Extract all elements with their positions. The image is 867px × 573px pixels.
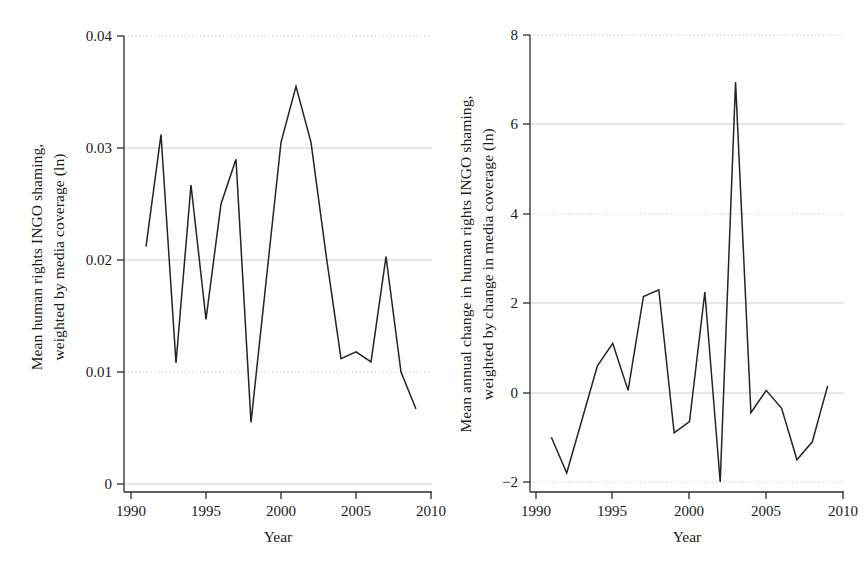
x-tick-label-1990: 1990	[116, 503, 146, 519]
y-tick-label--2: −2	[502, 474, 518, 490]
x-tick-label-2000: 2000	[674, 503, 704, 519]
x-axis-left: 1990 1995 2000 2005 2010	[116, 492, 446, 519]
y-tick-label-0: 0	[511, 385, 519, 401]
gridlines-right	[530, 35, 844, 482]
x-tick-label-2005: 2005	[341, 503, 371, 519]
y-tick-label-8: 8	[511, 27, 519, 43]
y-axis-right: 8 6 4 2 0 −2	[502, 27, 530, 492]
y-axis-left: 0.04 0.03 0.02 0.01 0	[86, 28, 124, 492]
y-tick-label-0.02: 0.02	[86, 252, 112, 268]
y-tick-label-0.01: 0.01	[86, 364, 112, 380]
x-axis-right: 1990 1995 2000 2005 2010	[521, 492, 858, 519]
plot-area-left: 0.04 0.03 0.02 0.01 0 1990 1995 200	[0, 0, 440, 520]
x-tick-label-1990: 1990	[521, 503, 551, 519]
data-series-line-right	[551, 82, 827, 482]
plot-svg-left: 0.04 0.03 0.02 0.01 0 1990 1995 200	[0, 0, 440, 520]
x-axis-label-right: Year	[530, 528, 844, 546]
y-tick-label-6: 6	[511, 116, 519, 132]
y-tick-label-4: 4	[511, 206, 519, 222]
y-tick-label-0.04: 0.04	[86, 28, 113, 44]
y-tick-label-2: 2	[511, 295, 519, 311]
plot-svg-right: 8 6 4 2 0 −2 1990 1995 2000	[440, 0, 867, 520]
x-tick-label-1995: 1995	[191, 503, 221, 519]
y-tick-label-0.03: 0.03	[86, 140, 112, 156]
chart-panel-right: Mean annual change in human rights INGO …	[440, 0, 867, 573]
y-tick-label-0: 0	[105, 476, 113, 492]
figure-container: Mean human rights INGO shaming, weighted…	[0, 0, 867, 573]
plot-area-right: 8 6 4 2 0 −2 1990 1995 2000	[440, 0, 867, 520]
chart-panel-left: Mean human rights INGO shaming, weighted…	[0, 0, 440, 573]
x-tick-label-2000: 2000	[266, 503, 296, 519]
x-tick-label-2005: 2005	[751, 503, 781, 519]
x-tick-label-1995: 1995	[597, 503, 627, 519]
x-tick-label-2010: 2010	[828, 503, 858, 519]
x-axis-label-left: Year	[124, 528, 432, 546]
